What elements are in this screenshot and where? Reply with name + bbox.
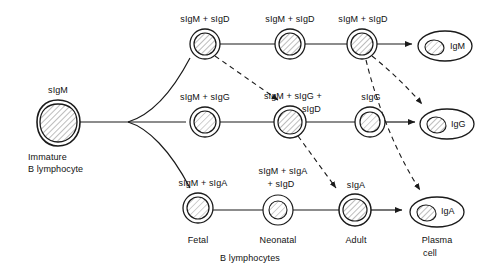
stage-caption-neonatal: Neonatal (260, 235, 297, 246)
stage-caption-fetal: Fetal (188, 235, 209, 246)
row-igd-cell-2-label: sIgM + sIgD (265, 14, 314, 25)
dashed-igg-to-iga (298, 136, 336, 188)
row-iga-cell-2-label-line1: sIgM + sIgA (259, 166, 308, 177)
figure-canvas: sIgM Immature B lymphocyte sIgM + sIgD s… (0, 0, 488, 273)
plasma-igm-label: IgM (450, 41, 465, 51)
row-igg-cell-2-label-line1: sIgM + sIgG + (264, 91, 322, 102)
row-igg-cell-1-label: sIgM + sIgG (180, 92, 230, 103)
stage-caption-plasma-line1: Plasma (422, 235, 453, 246)
lineage-branch-lines (80, 58, 190, 188)
row-igd-cells (190, 29, 377, 59)
plasma-cell-iga (410, 197, 464, 227)
row-igg-cell-3-label: sIgG (361, 92, 380, 103)
plasma-iga-label: IgA (441, 206, 455, 216)
immature-b-lymphocyte-cell (37, 100, 80, 146)
row-iga-cells (183, 193, 371, 226)
precursor-name-line1: Immature (28, 152, 67, 163)
stage-caption-adult: Adult (345, 235, 366, 246)
row-igg-cells (190, 106, 385, 138)
precursor-surface-ig-label: sIgM (48, 85, 68, 96)
row-igd-cell-3-label: sIgM + sIgD (338, 14, 387, 25)
diagram-svg (0, 0, 488, 273)
stage-caption-plasma-line2: cell (423, 248, 437, 259)
dashed-pathways (215, 56, 422, 190)
plasma-cell-igg (420, 109, 474, 139)
figure-caption: B lymphocytes (220, 253, 280, 264)
row-iga-cell-3-label: sIgA (347, 180, 365, 191)
row-igg-cell-2-label-line2: sIgD (302, 104, 321, 115)
row-igd-cell-1-label: sIgM + sIgD (180, 14, 229, 25)
plasma-igg-label: IgG (451, 119, 466, 129)
precursor-name-line2: B lymphocyte (28, 164, 83, 175)
row-iga-cell-2-label-line2: + sIgD (268, 179, 295, 190)
row-iga-cell-1-label: sIgM + sIgA (179, 178, 228, 189)
